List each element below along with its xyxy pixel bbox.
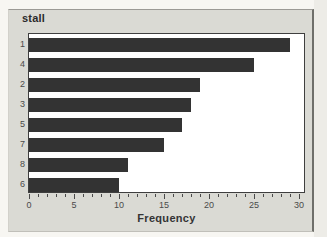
x-axis-minor-tick [146,194,147,197]
x-axis-minor-tick [155,194,156,197]
bar-category-4 [29,58,254,72]
x-axis-minor-tick [101,194,102,197]
x-axis-major-tick [74,194,75,199]
bar-category-7 [29,138,164,152]
bar-category-5 [29,118,182,132]
x-axis-minor-tick [236,194,237,197]
y-axis-label: 7 [11,137,25,151]
x-axis-major-tick [29,194,30,199]
x-axis-minor-tick [227,194,228,197]
x-axis-tick-label: 20 [198,200,220,210]
y-axis-label: 4 [11,57,25,71]
scanned-chart-page: { "page": { "background": "#f7f6f2", "ri… [0,0,327,237]
chart-title: stall [22,12,45,24]
x-axis-minor-tick [56,194,57,197]
x-axis-major-tick [164,194,165,199]
bar-category-8 [29,158,128,172]
x-axis-minor-tick [92,194,93,197]
y-axis-label: 8 [11,157,25,171]
x-axis-major-tick [299,194,300,199]
x-axis-tick-label: 15 [153,200,175,210]
bar-category-6 [29,178,119,192]
x-axis-minor-tick [173,194,174,197]
x-axis-title: Frequency [28,212,305,224]
x-axis-minor-tick [38,194,39,197]
x-axis-minor-tick [128,194,129,197]
x-axis-minor-tick [263,194,264,197]
x-axis-minor-tick [272,194,273,197]
x-axis-tick-label: 5 [63,200,85,210]
x-axis-tick-label: 25 [243,200,265,210]
x-axis-major-tick [209,194,210,199]
bar-category-3 [29,98,191,112]
page-scan-edge [314,0,327,237]
x-axis-minor-tick [47,194,48,197]
x-axis-minor-tick [281,194,282,197]
x-axis-minor-tick [110,194,111,197]
x-axis-minor-tick [245,194,246,197]
x-axis-tick-label: 10 [108,200,130,210]
y-axis-label: 6 [11,177,25,191]
x-axis-minor-tick [137,194,138,197]
plot-area [28,33,305,193]
x-axis-minor-tick [191,194,192,197]
x-axis-tick-label: 0 [18,200,40,210]
x-axis-minor-tick [200,194,201,197]
bar-category-2 [29,78,200,92]
y-axis-label: 1 [11,37,25,51]
x-axis-minor-tick [65,194,66,197]
x-axis-minor-tick [218,194,219,197]
y-axis-label: 5 [11,117,25,131]
x-axis-minor-tick [83,194,84,197]
x-axis-minor-tick [290,194,291,197]
x-axis-tick-label: 30 [288,200,310,210]
x-axis-major-tick [254,194,255,199]
chart-panel: stall 14235786 051015202530 Frequency [8,9,314,232]
x-axis-major-tick [119,194,120,199]
y-axis-label: 2 [11,77,25,91]
bar-category-1 [29,38,290,52]
y-axis-label: 3 [11,97,25,111]
x-axis-minor-tick [182,194,183,197]
